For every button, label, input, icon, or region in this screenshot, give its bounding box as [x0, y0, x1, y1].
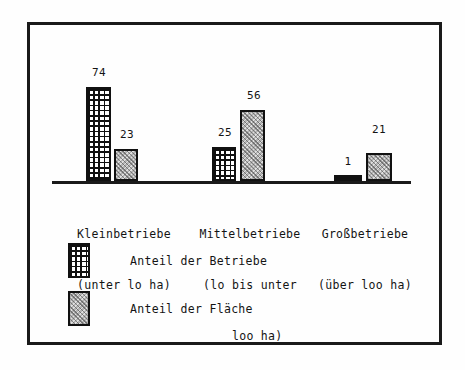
legend-label-betriebe: Anteil der Betriebe — [130, 254, 267, 268]
bar-betriebe-kleinbetriebe — [86, 87, 111, 181]
bar-value-flaeche-grossbetriebe: 21 — [364, 124, 394, 135]
group-label-line2: (über loo ha) — [290, 277, 440, 294]
bar-betriebe-mittelbetriebe — [212, 147, 236, 181]
bar-flaeche-kleinbetriebe — [114, 149, 138, 181]
bar-flaeche-grossbetriebe — [366, 153, 392, 181]
bar-value-betriebe-kleinbetriebe: 74 — [84, 67, 114, 78]
group-baseline — [190, 181, 314, 184]
group-baseline — [306, 181, 411, 184]
bar-value-betriebe-mittelbetriebe: 25 — [210, 127, 240, 138]
group-label-grossbetriebe: Großbetriebe (über loo ha) — [290, 192, 440, 328]
bar-flaeche-mittelbetriebe — [240, 110, 265, 181]
bar-betriebe-grossbetriebe — [334, 175, 362, 181]
chart-frame: 74 23 Kleinbetriebe (unter lo ha) 25 56 … — [27, 22, 442, 345]
bar-value-flaeche-kleinbetriebe: 23 — [112, 129, 142, 140]
bar-group-grossbetriebe: 1 21 Großbetriebe (über loo ha) — [298, 25, 448, 342]
legend-swatch-stipple-icon — [68, 291, 90, 326]
plot-area: 74 23 Kleinbetriebe (unter lo ha) 25 56 … — [30, 25, 439, 342]
bar-value-flaeche-mittelbetriebe: 56 — [239, 90, 269, 101]
legend-label-flaeche: Anteil der Fläche — [130, 302, 253, 316]
legend-swatch-grid-icon — [68, 243, 90, 278]
bar-value-betriebe-grossbetriebe: 1 — [333, 156, 363, 167]
group-label-line1: Großbetriebe — [290, 226, 440, 243]
